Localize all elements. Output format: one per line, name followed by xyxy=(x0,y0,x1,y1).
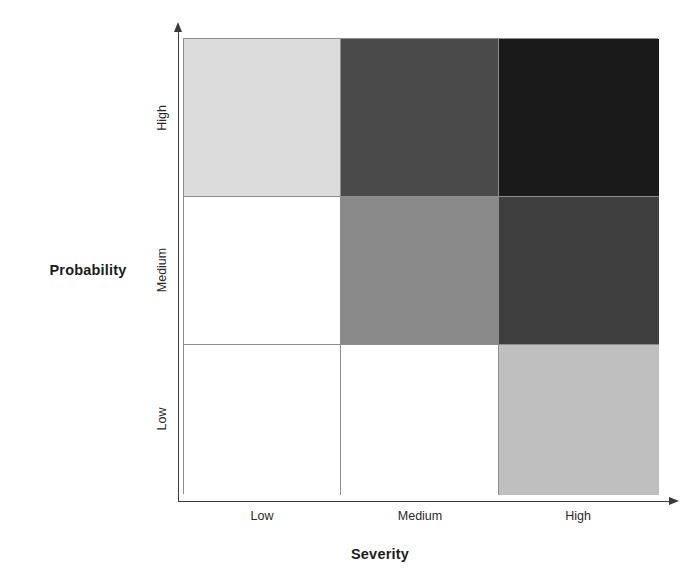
x-axis-arrow-icon xyxy=(669,497,679,505)
matrix-cell xyxy=(499,39,659,197)
matrix-cell xyxy=(184,39,341,197)
x-axis-line xyxy=(178,501,671,502)
x-tick-label-high: High xyxy=(499,509,657,523)
matrix-cell xyxy=(184,197,341,345)
risk-matrix-grid xyxy=(183,38,658,494)
y-axis-title: Probability xyxy=(22,262,154,278)
matrix-cell xyxy=(341,197,499,345)
y-axis-arrow-icon xyxy=(174,22,182,32)
matrix-cell xyxy=(499,345,659,495)
matrix-cell xyxy=(341,39,499,197)
risk-matrix-figure: Probability Severity High Medium Low Low… xyxy=(0,0,688,588)
x-tick-label-low: Low xyxy=(183,509,341,523)
x-tick-label-medium: Medium xyxy=(341,509,499,523)
matrix-cell xyxy=(184,345,341,495)
matrix-cell xyxy=(499,197,659,345)
x-axis-title: Severity xyxy=(300,546,460,562)
y-tick-label-low: Low xyxy=(155,374,169,464)
y-tick-label-high: High xyxy=(155,73,169,163)
y-axis-line xyxy=(178,30,179,502)
y-tick-label-medium: Medium xyxy=(155,225,169,315)
matrix-cell xyxy=(341,345,499,495)
